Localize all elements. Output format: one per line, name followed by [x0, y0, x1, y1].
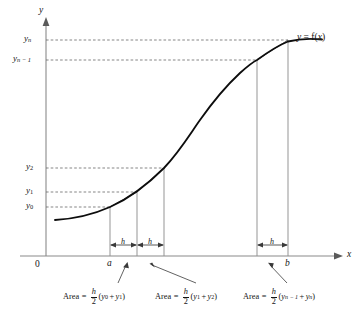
dashed-guides-group: [46, 40, 288, 207]
fraction-h-over-2-last: h 2: [271, 288, 277, 307]
h-bar-2-arrow-left: [137, 242, 143, 247]
fraction-h-over-2-first: h 2: [91, 288, 97, 307]
x-axis-arrowhead: [334, 253, 343, 260]
leader-line-first: [118, 265, 126, 283]
origin-label: 0: [35, 260, 40, 270]
x-tick-b: b: [285, 259, 290, 269]
figure-canvas: [0, 0, 363, 314]
trapezoid-chords-group: [110, 40, 288, 207]
leader-line-second: [152, 265, 196, 283]
y-tick-yn1: yn − 1: [13, 54, 31, 64]
y-tick-y1: y1: [26, 186, 33, 196]
h-bar-3-arrow-left: [257, 242, 263, 247]
leader-head-last: [268, 263, 274, 268]
leader-head-first: [123, 262, 129, 268]
area-formula-last: Area = h 2 (yn − 1+yn): [243, 288, 315, 307]
x-axis-label: x: [347, 250, 351, 260]
area-formula-first: Area = h 2 (y0+y1): [63, 288, 125, 307]
h-label-2: h: [148, 238, 152, 246]
area-formula-second: Area = h 2 (y1+y2): [155, 288, 217, 307]
h-bar-1-arrow-right: [131, 242, 137, 247]
y-axis-arrowhead: [43, 17, 50, 26]
h-bar-3-arrow-right: [282, 242, 288, 247]
trapezoidal-rule-figure: y x 0 yn yn − 1 y2 y1 y0 a b h h h y = f…: [0, 0, 363, 314]
function-label: y = f(x): [297, 33, 325, 43]
h-bar-1-arrow-left: [110, 242, 116, 247]
h-label-3: h: [270, 238, 274, 246]
fraction-h-over-2-second: h 2: [183, 288, 189, 307]
x-tick-a: a: [107, 259, 112, 269]
y-tick-yn: yn: [24, 34, 31, 44]
ordinate-lines-group: [110, 40, 288, 256]
formula-leader-lines-group: [118, 262, 287, 283]
leader-head-second: [150, 263, 155, 268]
axes-group: [20, 17, 343, 259]
function-curve: [55, 39, 322, 220]
h-bar-2-arrow-right: [158, 242, 164, 247]
y-axis-label: y: [39, 6, 43, 16]
y-tick-y0: y0: [26, 201, 33, 211]
h-label-1: h: [121, 238, 125, 246]
y-tick-y2: y2: [26, 162, 33, 172]
